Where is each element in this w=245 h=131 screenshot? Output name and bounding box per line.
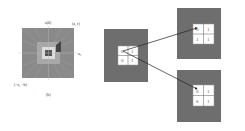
label-right: a₀ — [78, 51, 82, 56]
label-top: a(0) — [45, 20, 52, 25]
label-top-right: (a, r) — [72, 21, 80, 27]
pyramid-figure: a(0) (a, r) a₀ (−a, −b) (b) — [14, 20, 82, 97]
figure-caption: (b) — [46, 92, 51, 97]
target-patch-top: 0 1 1 1 — [177, 8, 221, 59]
target-patch-bottom: 0 1 0 1 — [177, 70, 221, 122]
source-patch: 0 1 0 1 — [104, 29, 148, 82]
diagram-canvas: a(0) (a, r) a₀ (−a, −b) (b) 0 1 0 1 0 1 … — [0, 0, 245, 131]
label-bottom-left: (−a, −b) — [14, 82, 28, 88]
